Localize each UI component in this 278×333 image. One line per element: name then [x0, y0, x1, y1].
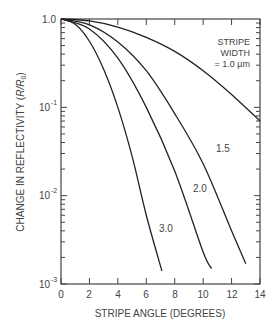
y-tick-exp-0.01: -2: [51, 187, 57, 194]
legend-line-value: = 1.0 µm: [215, 59, 250, 69]
y-tick-exp-0.1: -1: [51, 99, 57, 106]
reflectivity-chart: 1.0 10 -1 10 -2 10 -3 0 2 4 6 8 10 12 14…: [0, 0, 278, 333]
series-label-3.0: 3.0: [159, 223, 173, 234]
series-curve-1.5: [61, 19, 246, 264]
x-tick-label-6: 6: [143, 289, 149, 300]
x-tick-label-12: 12: [226, 289, 238, 300]
legend-line-width: WIDTH: [221, 48, 251, 58]
series-curve-1.0: [61, 19, 260, 121]
series-label-1.5: 1.5: [216, 143, 230, 154]
x-tick-label-4: 4: [115, 289, 121, 300]
x-tick-label-8: 8: [172, 289, 178, 300]
y-axis-title: CHANGE IN REFLECTIVITY (R/R0): [15, 72, 27, 231]
y-tick-label-0.01: 10: [39, 190, 51, 201]
y-tick-label-0.1: 10: [39, 102, 51, 113]
y-tick-exp-0.001: -3: [51, 276, 57, 283]
y-tick-label-0.001: 10: [39, 279, 51, 290]
x-tick-label-2: 2: [86, 289, 92, 300]
series-curve-2.0: [61, 19, 212, 268]
series-label-2.0: 2.0: [193, 183, 207, 194]
x-tick-label-10: 10: [197, 289, 209, 300]
x-axis-title: STRIPE ANGLE (DEGREES): [95, 308, 226, 319]
y-tick-label-1: 1.0: [42, 14, 56, 25]
x-tick-label-14: 14: [254, 289, 266, 300]
x-tick-label-0: 0: [58, 289, 64, 300]
legend-line-stripe: STRIPE: [217, 37, 250, 47]
series-curve-3.0: [61, 19, 162, 271]
